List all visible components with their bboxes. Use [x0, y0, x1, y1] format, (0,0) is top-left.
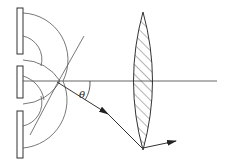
wavefront-arc — [23, 13, 68, 81]
top-plate — [17, 8, 23, 54]
slit-screen — [17, 8, 23, 158]
incident-line-lower — [30, 84, 57, 135]
bottom-plate — [17, 111, 23, 158]
theta-label: θ — [79, 89, 85, 100]
middle-plate — [17, 66, 23, 98]
lens — [134, 12, 153, 150]
incident-line — [57, 36, 84, 84]
angle-arc — [85, 81, 90, 100]
double-slit-lens-diagram: θ — [0, 0, 225, 166]
wavefronts — [23, 13, 68, 148]
diagram-canvas: θ — [0, 0, 225, 166]
refracted-ray-arrow — [143, 141, 176, 148]
wavefront-arc — [23, 81, 67, 148]
lens-body — [134, 12, 153, 150]
